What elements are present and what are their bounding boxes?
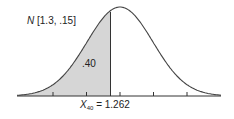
area-label: .40	[82, 58, 96, 69]
normal-distribution-chart: N [1.3, .15] .40 X40 = 1.262	[0, 0, 234, 119]
distribution-label: N [1.3, .15]	[27, 15, 76, 26]
cutoff-label: X40 = 1.262	[80, 99, 130, 111]
